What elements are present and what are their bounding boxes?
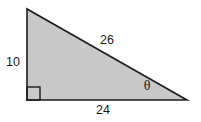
label-bottom-side: 24 — [96, 103, 110, 117]
triangle-shape — [27, 9, 187, 100]
label-left-side: 10 — [6, 55, 20, 69]
label-theta-angle: θ — [144, 78, 151, 93]
triangle-diagram-canvas: 10 26 24 θ — [0, 0, 201, 122]
right-triangle-figure: 10 26 24 θ — [0, 0, 201, 122]
label-hypotenuse: 26 — [100, 33, 114, 47]
